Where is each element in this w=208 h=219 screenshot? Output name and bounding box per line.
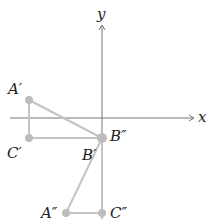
label-a-prime: A′: [8, 82, 22, 97]
label-b-double-prime: B″: [110, 129, 127, 144]
diagram-svg: [0, 0, 208, 219]
label-b-prime: B′: [82, 148, 96, 163]
point-a-prime: [25, 96, 33, 104]
label-a-double-prime: A″: [41, 206, 57, 219]
transformation-diagram: y x A′ C′ B″ B′ A″ C″: [0, 0, 208, 219]
point-a-double-prime: [62, 209, 70, 217]
x-axis-label: x: [198, 110, 206, 125]
point-c-prime: [25, 134, 33, 142]
label-c-double-prime: C″: [110, 206, 127, 219]
triangle-prime: [29, 100, 102, 138]
label-c-prime: C′: [7, 146, 22, 161]
y-axis-label: y: [97, 7, 105, 22]
point-b: [97, 133, 107, 143]
point-c-double-prime: [98, 209, 106, 217]
